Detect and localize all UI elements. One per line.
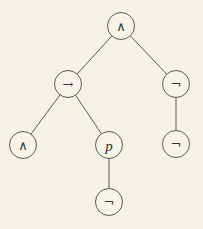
tree-node: ¬ [163,71,190,98]
tree-node: ¬ [96,189,123,216]
node-label: ∧ [18,138,28,153]
tree-edge [130,36,166,74]
node-label: ¬ [171,137,182,152]
tree-node: ¬ [163,131,190,158]
tree-nodes: ∧→¬∧p¬¬ [10,13,190,216]
node-label: ¬ [104,195,115,210]
tree-node: p [96,132,123,159]
tree-edge [77,36,112,74]
tree-node: → [55,71,82,98]
tree-edge [31,95,60,134]
tree-node: ∧ [108,13,135,40]
tree-edge [76,95,102,134]
node-label: p [104,138,113,154]
tree-edges [31,36,176,189]
syntax-tree-diagram: ∧→¬∧p¬¬ [0,0,203,229]
node-label: ¬ [171,77,182,92]
tree-node: ∧ [10,132,37,159]
node-label: → [63,77,74,92]
node-label: ∧ [116,19,126,34]
